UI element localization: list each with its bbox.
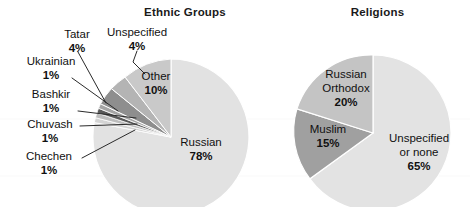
figure-canvas: Ethnic Groups Religions	[0, 0, 470, 207]
slice-label-muslim-percent: 15%	[299, 137, 357, 151]
callout-tatar-name: Tatar	[52, 28, 102, 42]
callout-tatar-percent: 4%	[52, 42, 102, 56]
callout-chechen-percent: 1%	[14, 164, 84, 178]
slice-label-other: Other 10%	[129, 70, 183, 98]
slice-label-unspecified-religion-name-line2: or none	[379, 146, 459, 160]
slice-label-russian-percent: 78%	[166, 150, 236, 164]
slice-label-russian-orthodox-percent: 20%	[310, 96, 382, 110]
callout-bashkir-name: Bashkir	[20, 88, 82, 102]
callout-unspecified-ethnic-name: Unspecified	[101, 26, 173, 40]
slice-label-other-percent: 10%	[129, 84, 183, 98]
callout-ukrainian: Ukrainian 1%	[14, 55, 88, 82]
slice-label-russian-name: Russian	[166, 136, 236, 150]
callout-bashkir: Bashkir 1%	[20, 88, 82, 115]
slice-label-russian-orthodox-name-line2: Orthodox	[310, 82, 382, 96]
callout-tatar: Tatar 4%	[52, 28, 102, 55]
callout-unspecified-ethnic-percent: 4%	[101, 40, 173, 54]
slice-label-unspecified-religion-name-line1: Unspecified	[379, 132, 459, 146]
slice-label-other-name: Other	[129, 70, 183, 84]
slice-label-unspecified-religion-percent: 65%	[379, 160, 459, 174]
callout-chuvash-name: Chuvash	[16, 118, 84, 132]
callout-chechen-name: Chechen	[14, 150, 84, 164]
callout-chuvash: Chuvash 1%	[16, 118, 84, 145]
slice-label-russian-orthodox: Russian Orthodox 20%	[310, 68, 382, 109]
callout-ukrainian-percent: 1%	[14, 69, 88, 83]
slice-label-unspecified-religion: Unspecified or none 65%	[379, 132, 459, 173]
slice-label-russian: Russian 78%	[166, 136, 236, 164]
callout-chuvash-percent: 1%	[16, 132, 84, 146]
callout-ukrainian-name: Ukrainian	[14, 55, 88, 69]
slice-label-muslim: Muslim 15%	[299, 123, 357, 151]
callout-unspecified-ethnic: Unspecified 4%	[101, 26, 173, 53]
slice-label-muslim-name: Muslim	[299, 123, 357, 137]
callout-bashkir-percent: 1%	[20, 102, 82, 116]
callout-chechen: Chechen 1%	[14, 150, 84, 177]
slice-label-russian-orthodox-name-line1: Russian	[310, 68, 382, 82]
